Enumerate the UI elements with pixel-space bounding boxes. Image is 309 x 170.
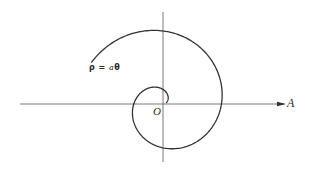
diagram-canvas (0, 0, 309, 170)
theta-symbol: θ (114, 63, 120, 72)
polar-axis-label: A (287, 97, 294, 109)
spiral-equation: ρ = aθ (89, 64, 120, 72)
arrowhead-icon (277, 102, 286, 107)
origin-label: O (153, 106, 161, 117)
spiral-curve (91, 30, 222, 148)
rho-symbol: ρ (89, 63, 95, 72)
equals-sign: = (99, 63, 106, 72)
spiral-diagram: ρ = aθ A O (0, 0, 309, 170)
